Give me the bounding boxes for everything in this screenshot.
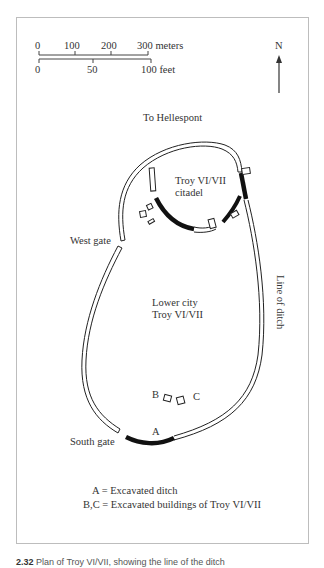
building-b: [163, 394, 171, 402]
label-marker-a: A: [152, 426, 160, 438]
excavated-wall-east: [241, 173, 246, 199]
label-to-hellespont: To Hellespont: [143, 112, 202, 124]
north-arrow-icon: [276, 55, 282, 93]
label-west-gate: West gate: [70, 235, 111, 247]
legend-line-a: A = Excavated ditch: [92, 484, 178, 497]
label-south-gate: South gate: [70, 436, 115, 448]
building-c: [176, 396, 185, 405]
excavated-ditch-a: [126, 437, 174, 443]
scale-bar: [39, 51, 151, 63]
legend-line-bc: B,C = Excavated buildings of Troy VI/VII: [83, 498, 261, 511]
figure-caption: 2.32 Plan of Troy VI/VII, showing the li…: [16, 557, 225, 568]
outer-wall: [82, 142, 264, 440]
label-lower-city-line2: Troy VI/VII: [152, 309, 203, 321]
label-citadel-line2: citadel: [175, 187, 203, 199]
label-marker-c: C: [193, 391, 200, 403]
label-marker-b: B: [152, 389, 159, 401]
caption-number: 2.32: [16, 557, 34, 567]
label-line-of-ditch: Line of ditch: [274, 275, 286, 329]
label-lower-city-line1: Lower city: [152, 297, 198, 309]
label-citadel-line1: Troy VI/VII: [175, 175, 226, 187]
caption-text: Plan of Troy VI/VII, showing the line of…: [36, 557, 225, 567]
